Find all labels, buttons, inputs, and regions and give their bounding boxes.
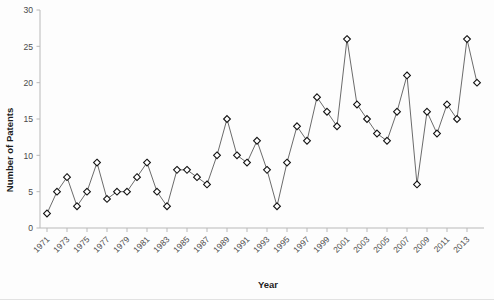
data-point-marker <box>174 166 181 173</box>
x-axis-title: Year <box>258 279 278 290</box>
x-tick-label: 2011 <box>432 234 452 254</box>
x-tick-label: 1985 <box>171 234 191 254</box>
data-point-marker <box>44 210 51 217</box>
y-tick-label: 5 <box>28 187 33 197</box>
data-point-marker <box>104 196 111 203</box>
data-point-markers <box>44 36 481 217</box>
data-series-line <box>47 39 477 213</box>
data-point-marker <box>84 188 91 195</box>
data-point-marker <box>444 101 451 108</box>
data-point-marker <box>264 166 271 173</box>
data-point-marker <box>394 108 401 115</box>
series-polyline <box>47 39 477 213</box>
data-point-marker <box>54 188 61 195</box>
data-point-marker <box>74 203 81 210</box>
data-point-marker <box>194 174 201 181</box>
x-tick-label: 1989 <box>211 234 231 254</box>
data-point-marker <box>224 116 231 123</box>
data-point-marker <box>454 116 461 123</box>
x-tick-label: 1995 <box>271 234 291 254</box>
y-tick-label: 0 <box>28 223 33 233</box>
y-tick-label: 20 <box>23 78 33 88</box>
x-tick-label: 1979 <box>111 234 131 254</box>
data-point-marker <box>204 181 211 188</box>
y-tick-label: 25 <box>23 42 33 52</box>
data-point-marker <box>314 94 321 101</box>
data-point-marker <box>404 72 411 79</box>
x-axis: 1971197319751977197919811983198519871989… <box>31 228 484 255</box>
data-point-marker <box>464 36 471 43</box>
data-point-marker <box>154 188 161 195</box>
x-tick-label: 1991 <box>231 234 251 254</box>
x-tick-label: 1975 <box>71 234 91 254</box>
data-point-marker <box>364 116 371 123</box>
patents-per-year-line-chart: 051015202530 197119731975197719791981198… <box>0 0 494 300</box>
x-tick-label: 1993 <box>251 234 271 254</box>
x-tick-label: 2003 <box>351 234 371 254</box>
data-point-marker <box>344 36 351 43</box>
data-point-marker <box>324 108 331 115</box>
x-tick-label: 1973 <box>51 234 71 254</box>
x-tick-label: 2007 <box>391 234 411 254</box>
data-point-marker <box>134 174 141 181</box>
data-point-marker <box>114 188 121 195</box>
x-tick-label: 1987 <box>191 234 211 254</box>
data-point-marker <box>244 159 251 166</box>
x-tick-label: 2005 <box>371 234 391 254</box>
x-tick-label: 1999 <box>311 234 331 254</box>
y-tick-label: 30 <box>23 5 33 15</box>
data-point-marker <box>434 130 441 137</box>
y-tick-label: 10 <box>23 151 33 161</box>
data-point-marker <box>354 101 361 108</box>
x-tick-label: 1983 <box>151 234 171 254</box>
y-axis-title: Number of Patents <box>4 108 15 192</box>
data-point-marker <box>184 166 191 173</box>
x-tick-label: 2013 <box>451 234 471 254</box>
data-point-marker <box>124 188 131 195</box>
data-point-marker <box>94 159 101 166</box>
x-tick-label: 2009 <box>411 234 431 254</box>
data-point-marker <box>474 79 481 86</box>
x-tick-label: 1981 <box>131 234 151 254</box>
y-axis: 051015202530 <box>23 5 40 233</box>
data-point-marker <box>164 203 171 210</box>
x-tick-label: 1977 <box>91 234 111 254</box>
data-point-marker <box>254 137 261 144</box>
x-tick-label: 1971 <box>31 234 51 254</box>
data-point-marker <box>384 137 391 144</box>
data-point-marker <box>214 152 221 159</box>
data-point-marker <box>144 159 151 166</box>
data-point-marker <box>424 108 431 115</box>
x-tick-label: 1997 <box>291 234 311 254</box>
data-point-marker <box>284 159 291 166</box>
data-point-marker <box>414 181 421 188</box>
data-point-marker <box>294 123 301 130</box>
data-point-marker <box>374 130 381 137</box>
data-point-marker <box>304 137 311 144</box>
data-point-marker <box>234 152 241 159</box>
data-point-marker <box>64 174 71 181</box>
chart-plot-area: 051015202530 197119731975197719791981198… <box>0 0 494 300</box>
data-point-marker <box>274 203 281 210</box>
x-tick-label: 2001 <box>331 234 351 254</box>
data-point-marker <box>334 123 341 130</box>
y-tick-label: 15 <box>23 114 33 124</box>
